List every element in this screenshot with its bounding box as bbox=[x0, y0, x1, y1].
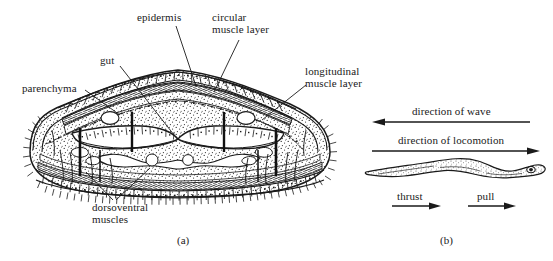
label-circular-muscle-layer-line2: muscle layer bbox=[212, 24, 269, 36]
label-pull: pull bbox=[477, 191, 495, 203]
label-longitudinal-muscle-layer-line1: longitudinal bbox=[305, 66, 362, 78]
label-longitudinal-muscle-layer-line2: muscle layer bbox=[305, 78, 362, 90]
locomotion-arrow bbox=[372, 147, 540, 154]
label-dorsoventral-muscles-line2: muscles bbox=[92, 214, 148, 226]
pull-arrow bbox=[468, 203, 516, 210]
wave-arrow bbox=[372, 118, 530, 125]
figure-artwork bbox=[0, 0, 553, 261]
label-dorsoventral-muscles-line1: dorsoventral bbox=[92, 202, 148, 214]
label-gut: gut bbox=[100, 55, 114, 67]
label-direction-of-wave: direction of wave bbox=[412, 106, 491, 118]
label-parenchyma: parenchyma bbox=[22, 83, 77, 95]
label-circular-muscle-layer: circular muscle layer bbox=[212, 12, 269, 35]
locomotion-diagram bbox=[365, 118, 545, 209]
label-circular-muscle-layer-line1: circular bbox=[212, 12, 269, 24]
label-dorsoventral-muscles: dorsoventral muscles bbox=[92, 202, 148, 225]
label-thrust: thrust bbox=[397, 191, 423, 203]
thrust-arrow bbox=[392, 203, 441, 210]
caption-panel-b: (b) bbox=[440, 234, 453, 246]
caption-panel-a: (a) bbox=[177, 234, 189, 246]
label-longitudinal-muscle-layer: longitudinal muscle layer bbox=[305, 66, 362, 89]
worm-body bbox=[365, 159, 545, 178]
label-epidermis: epidermis bbox=[137, 12, 181, 24]
label-direction-of-locomotion: direction of locomotion bbox=[398, 135, 504, 147]
figure-container: epidermis circular muscle layer longitud… bbox=[0, 0, 553, 261]
flatworm-cross-section bbox=[20, 26, 350, 210]
